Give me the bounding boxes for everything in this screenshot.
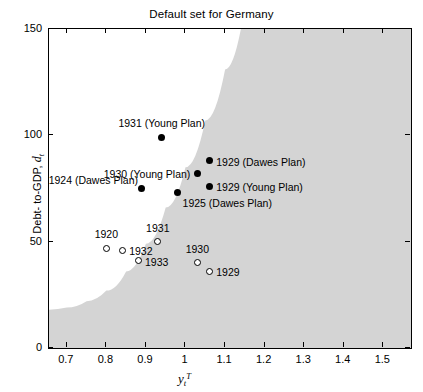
x-axis-label: ytT	[124, 371, 244, 388]
y-label-sub: t	[37, 154, 46, 156]
y-tick-left	[48, 241, 53, 242]
y-tick-right	[405, 28, 410, 29]
y-label-text: Debt- to-GDP,	[31, 162, 43, 233]
data-point-label: 1920	[95, 229, 118, 240]
y-tick-right	[405, 241, 410, 242]
y-tick-right	[405, 134, 410, 135]
x-tick-bottom	[66, 342, 67, 347]
x-tick-top	[264, 28, 265, 33]
data-point-label: 1931	[146, 222, 169, 233]
x-label-sup: T	[186, 371, 191, 381]
y-axis-label: Debt- to-GDP, dt	[30, 114, 46, 274]
y-tick-right	[405, 347, 410, 348]
x-tick-top	[105, 28, 106, 33]
x-tick-label: 1.2	[256, 353, 271, 365]
data-point-label: 1925 (Dawes Plan)	[183, 198, 272, 209]
x-tick-bottom	[303, 342, 304, 347]
data-point-filled[interactable]	[206, 183, 213, 190]
data-point-hollow[interactable]	[103, 245, 110, 252]
data-point-label: 1929	[216, 267, 239, 278]
x-tick-top	[224, 28, 225, 33]
data-point-hollow[interactable]	[206, 268, 213, 275]
y-tick-left	[48, 134, 53, 135]
y-tick-left	[48, 28, 53, 29]
data-point-label: 1933	[145, 257, 168, 268]
x-tick-bottom	[382, 342, 383, 347]
data-point-filled[interactable]	[194, 170, 201, 177]
x-tick-top	[382, 28, 383, 33]
x-tick-top	[343, 28, 344, 33]
x-tick-top	[145, 28, 146, 33]
chart-figure: Default set for Germany 1931 (Young Plan…	[0, 0, 423, 392]
data-point-label: 1929 (Young Plan)	[216, 182, 303, 193]
data-point-label: 1930	[186, 243, 209, 254]
x-tick-bottom	[343, 342, 344, 347]
plot-area: 1931 (Young Plan)1929 (Dawes Plan)1930 (…	[48, 28, 412, 349]
x-tick-label: 1.5	[375, 353, 390, 365]
x-tick-bottom	[264, 342, 265, 347]
data-point-label: 1924 (Dawes Plan)	[49, 174, 138, 185]
x-tick-label: 0.9	[137, 353, 152, 365]
x-tick-label: 1.3	[296, 353, 311, 365]
x-tick-bottom	[105, 342, 106, 347]
y-tick-label: 150	[12, 22, 42, 34]
y-label-var: d	[30, 156, 44, 162]
x-tick-label: 1.4	[335, 353, 350, 365]
x-tick-label: 0.7	[58, 353, 73, 365]
x-tick-label: 1	[181, 353, 187, 365]
x-tick-top	[303, 28, 304, 33]
data-point-label: 1929 (Dawes Plan)	[216, 157, 305, 168]
x-tick-top	[184, 28, 185, 33]
data-point-hollow[interactable]	[119, 247, 126, 254]
x-tick-bottom	[145, 342, 146, 347]
y-tick-label: 0	[12, 341, 42, 353]
x-tick-bottom	[224, 342, 225, 347]
chart-title: Default set for Germany	[0, 8, 423, 20]
data-point-hollow[interactable]	[135, 257, 142, 264]
x-tick-bottom	[184, 342, 185, 347]
x-tick-label: 0.8	[98, 353, 113, 365]
y-tick-left	[48, 347, 53, 348]
data-point-label: 1931 (Young Plan)	[118, 118, 205, 129]
x-tick-top	[66, 28, 67, 33]
x-tick-label: 1.1	[216, 353, 231, 365]
